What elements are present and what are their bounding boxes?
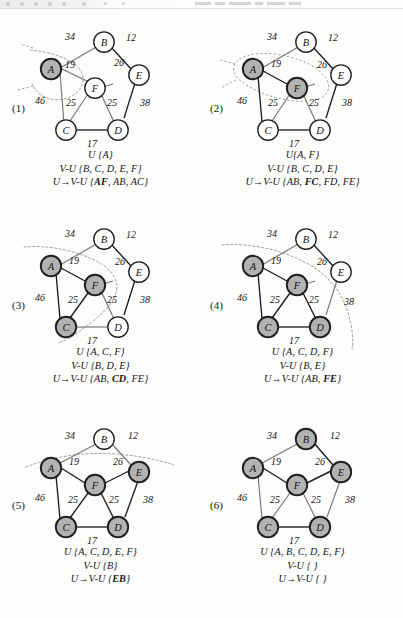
svg-text:25: 25 bbox=[66, 97, 76, 108]
caption-5-tail: } bbox=[126, 573, 130, 584]
caption-step-5: U {A, C, D, E, F} V-U {B} U→V-U {EB} bbox=[0, 545, 201, 586]
svg-text:46: 46 bbox=[35, 95, 45, 106]
caption-3-line2: V-U {B, D, E} bbox=[0, 359, 201, 373]
svg-text:A: A bbox=[47, 261, 55, 272]
svg-text:19: 19 bbox=[271, 456, 281, 467]
svg-text:34: 34 bbox=[266, 31, 277, 42]
svg-text:34: 34 bbox=[64, 31, 75, 42]
svg-text:12: 12 bbox=[330, 430, 340, 441]
svg-text:34: 34 bbox=[266, 430, 277, 441]
caption-3-tail: , FE} bbox=[126, 373, 148, 384]
caption-4-line1: U {A, C, D, F} bbox=[202, 345, 403, 359]
panel-step-6: (6) B A E F bbox=[202, 415, 403, 615]
caption-5-line2: V-U {B} bbox=[0, 559, 201, 573]
svg-text:12: 12 bbox=[328, 32, 338, 43]
caption-6-line1: U {A, B, C, D, E, F} bbox=[202, 545, 403, 559]
svg-text:19: 19 bbox=[69, 456, 79, 467]
caption-1-tail: , AB, AC} bbox=[108, 176, 148, 187]
svg-text:26: 26 bbox=[317, 256, 327, 267]
panel-step-2: (2) B A bbox=[202, 18, 403, 218]
svg-text:D: D bbox=[113, 125, 122, 136]
svg-text:19: 19 bbox=[65, 59, 75, 70]
caption-3-u: U bbox=[53, 373, 60, 384]
svg-text:A: A bbox=[249, 64, 257, 75]
svg-text:A: A bbox=[47, 64, 55, 75]
caption-step-1: U {A} V-U {B, C, D, E, F} U→V-U {AF, AB,… bbox=[0, 148, 201, 189]
scan-artifact-text bbox=[195, 0, 345, 8]
caption-6-u: U bbox=[278, 573, 285, 584]
svg-text:12: 12 bbox=[328, 229, 338, 240]
caption-3-line1: U {A, C, F} bbox=[0, 345, 201, 359]
svg-text:46: 46 bbox=[35, 492, 45, 503]
svg-text:34: 34 bbox=[64, 430, 75, 441]
svg-text:F: F bbox=[293, 480, 301, 491]
svg-text:26: 26 bbox=[115, 256, 125, 267]
svg-text:E: E bbox=[135, 267, 143, 278]
svg-text:F: F bbox=[91, 280, 99, 291]
svg-text:19: 19 bbox=[69, 255, 79, 266]
svg-text:F: F bbox=[91, 480, 99, 491]
svg-text:E: E bbox=[135, 467, 143, 478]
caption-5-line1: U {A, C, D, E, F} bbox=[0, 545, 201, 559]
svg-text:38: 38 bbox=[139, 294, 150, 305]
svg-text:D: D bbox=[315, 322, 324, 333]
caption-2-bold-edge: FC bbox=[305, 176, 319, 187]
svg-text:38: 38 bbox=[344, 494, 355, 505]
caption-step-2: U{A, F} V-U {B, C, D, E} U→V-U {AB, FC, … bbox=[202, 148, 403, 189]
caption-5-bold-edge: EB bbox=[112, 573, 126, 584]
svg-text:A: A bbox=[47, 463, 55, 474]
svg-text:19: 19 bbox=[271, 255, 281, 266]
svg-text:19: 19 bbox=[271, 58, 281, 69]
svg-text:12: 12 bbox=[126, 229, 136, 240]
svg-text:B: B bbox=[303, 434, 310, 445]
svg-text:46: 46 bbox=[35, 292, 45, 303]
svg-text:25: 25 bbox=[68, 494, 78, 505]
caption-4-line2: V-U {B, E} bbox=[202, 359, 403, 373]
svg-text:25: 25 bbox=[268, 97, 278, 108]
svg-text:F: F bbox=[91, 83, 99, 94]
caption-2-u: U bbox=[245, 176, 252, 187]
svg-text:B: B bbox=[101, 37, 108, 48]
figure-prim-algorithm: (1) B A bbox=[0, 10, 403, 618]
graph-diagram-1: B A E F C D 34 12 19 26 46 25 25 38 17 bbox=[0, 18, 201, 158]
svg-text:26: 26 bbox=[315, 456, 325, 467]
svg-text:46: 46 bbox=[237, 292, 247, 303]
svg-text:B: B bbox=[101, 434, 108, 445]
svg-text:25: 25 bbox=[109, 494, 119, 505]
graph-diagram-4: B A E F C D 34 12 19 26 46 25 25 38 17 bbox=[202, 215, 403, 355]
svg-text:38: 38 bbox=[343, 296, 354, 307]
caption-1-line1: U {A} bbox=[0, 148, 201, 162]
caption-2-tail: , FD, FE} bbox=[318, 176, 359, 187]
panel-step-4: (4) B A E bbox=[202, 215, 403, 415]
svg-text:26: 26 bbox=[317, 59, 327, 70]
svg-text:D: D bbox=[315, 522, 324, 533]
caption-3-rest: V-U {AB, bbox=[70, 373, 111, 384]
svg-text:D: D bbox=[315, 125, 324, 136]
svg-text:E: E bbox=[337, 467, 345, 478]
graph-diagram-2: B A E F C D 34 12 19 26 46 25 25 38 17 bbox=[202, 18, 403, 158]
svg-text:A: A bbox=[249, 261, 257, 272]
caption-step-6: U {A, B, C, D, E, F} V-U { } U→V-U { } bbox=[202, 545, 403, 586]
svg-text:E: E bbox=[135, 70, 143, 81]
caption-4-arrow: → bbox=[271, 373, 281, 384]
svg-text:25: 25 bbox=[68, 294, 78, 305]
svg-text:E: E bbox=[337, 267, 345, 278]
svg-text:25: 25 bbox=[311, 494, 321, 505]
svg-text:C: C bbox=[264, 125, 272, 136]
caption-1-bold-edge: AF bbox=[94, 176, 108, 187]
caption-step-4: U {A, C, D, F} V-U {B, E} U→V-U {AB, FE} bbox=[202, 345, 403, 386]
svg-text:25: 25 bbox=[107, 97, 117, 108]
caption-6-arrow: → bbox=[286, 573, 296, 584]
svg-text:38: 38 bbox=[139, 97, 150, 108]
svg-text:C: C bbox=[264, 322, 272, 333]
svg-text:E: E bbox=[337, 70, 345, 81]
caption-2-rest: V-U {AB, bbox=[263, 176, 304, 187]
svg-text:B: B bbox=[303, 37, 310, 48]
svg-text:D: D bbox=[113, 322, 122, 333]
svg-text:C: C bbox=[62, 125, 70, 136]
caption-5-arrow: → bbox=[78, 573, 88, 584]
caption-2-line1: U{A, F} bbox=[202, 148, 403, 162]
graph-diagram-5: B A E F C D 34 12 19 26 46 25 25 38 17 bbox=[0, 415, 201, 555]
scan-artifact-rule bbox=[0, 8, 403, 9]
caption-5-line3: U→V-U {EB} bbox=[0, 572, 201, 586]
